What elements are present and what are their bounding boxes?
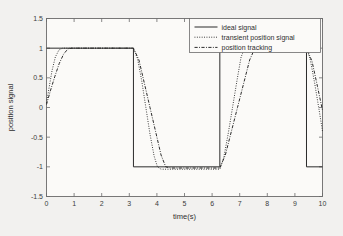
position-signal-chart: 012345678910-1.5-1-0.500.511.5 time(s) p… xyxy=(0,0,343,236)
legend-label: transient position signal xyxy=(222,34,296,42)
x-tick-label: 4 xyxy=(155,200,159,207)
chart-legend: ideal signaltransient position signalpos… xyxy=(190,19,321,53)
legend-label: position tracking xyxy=(222,44,273,52)
y-axis-label: position signal xyxy=(6,83,15,131)
x-tick-label: 5 xyxy=(183,200,187,207)
x-tick-label: 0 xyxy=(45,200,49,207)
x-tick-label: 9 xyxy=(293,200,297,207)
figure-container: 012345678910-1.5-1-0.500.511.5 time(s) p… xyxy=(0,0,343,236)
x-tick-label: 3 xyxy=(127,200,131,207)
y-tick-label: 1.5 xyxy=(33,15,43,22)
x-tick-label: 8 xyxy=(265,200,269,207)
legend-label: ideal signal xyxy=(222,24,257,32)
x-tick-label: 7 xyxy=(238,200,242,207)
x-tick-label: 10 xyxy=(319,200,327,207)
x-axis-label: time(s) xyxy=(173,212,196,221)
y-tick-label: 0.5 xyxy=(33,74,43,81)
x-tick-label: 2 xyxy=(100,200,104,207)
y-tick-label: 0 xyxy=(39,104,43,111)
y-tick-label: 1 xyxy=(39,45,43,52)
y-tick-label: -1 xyxy=(37,163,43,170)
x-tick-label: 1 xyxy=(72,200,76,207)
y-tick-label: -0.5 xyxy=(31,134,43,141)
y-tick-label: -1.5 xyxy=(31,193,43,200)
x-tick-label: 6 xyxy=(210,200,214,207)
